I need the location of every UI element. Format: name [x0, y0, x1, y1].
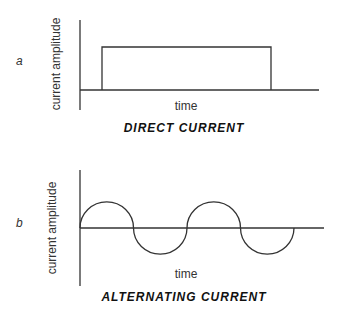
- panel-b-letter: b: [16, 216, 23, 230]
- panel-a-plot: [80, 20, 319, 110]
- panel-b-y-axis-label: current amplitude: [45, 176, 59, 280]
- panel-a-dc-pulse: [102, 47, 271, 90]
- panel-b-x-axis-label: time: [160, 267, 212, 281]
- panel-b-caption: ALTERNATING CURRENT: [96, 290, 272, 304]
